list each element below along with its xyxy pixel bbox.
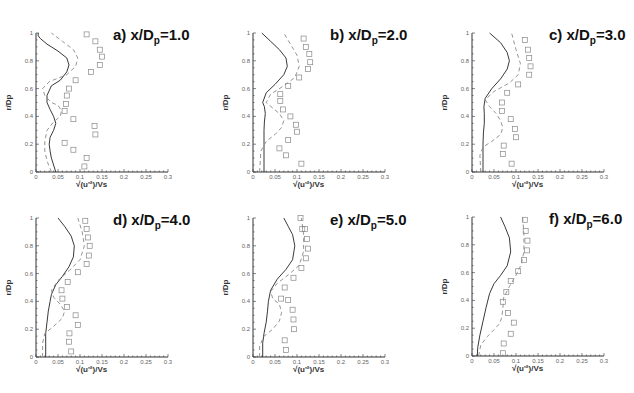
y-tick-label: 0	[466, 353, 470, 359]
y-tick-label: 0	[466, 169, 470, 175]
axes	[253, 218, 385, 357]
solid-curve	[263, 218, 295, 357]
y-tick-label: 0.2	[242, 326, 251, 332]
x-tick-label: 0.05	[488, 174, 500, 180]
x-axis-label: √(u'²)/Vs	[293, 365, 324, 374]
y-axis-label: r/Dp	[221, 279, 230, 295]
y-tick-label: 0.4	[461, 113, 470, 119]
x-tick-label: 0.2	[120, 359, 129, 365]
dashed-curve	[43, 33, 78, 172]
y-tick-label: 0.8	[461, 58, 470, 64]
x-tick-label: 0	[34, 359, 38, 365]
x-tick-label: 0.2	[556, 358, 565, 364]
y-tick-label: 0.8	[242, 58, 251, 64]
y-tick-label: 0.6	[242, 271, 251, 277]
y-tick-label: 0.4	[242, 298, 251, 304]
plot-area: 00.20.40.60.8100.050.10.150.20.250.3	[436, 184, 634, 380]
panel-a: a) x/Dp=1.000.20.40.60.8100.050.10.150.2…	[0, 0, 211, 196]
x-tick-label: 0.2	[556, 174, 565, 180]
x-tick-label: 0.25	[140, 359, 152, 365]
x-tick-label: 0.3	[164, 174, 173, 180]
x-tick-label: 0.3	[164, 359, 173, 365]
y-tick-label: 0.2	[461, 325, 470, 331]
x-axis-label: √(u'²)/Vs	[512, 364, 543, 373]
y-axis-label: r/Dp	[440, 278, 449, 294]
x-tick-label: 0.3	[600, 174, 609, 180]
plot-area: 00.20.40.60.8100.050.10.150.20.250.3	[436, 0, 634, 196]
x-tick-label: 0	[251, 359, 255, 365]
x-tick-label: 0	[34, 174, 38, 180]
x-tick-label: 0.25	[357, 174, 369, 180]
y-tick-label: 0	[247, 169, 251, 175]
y-tick-label: 0.8	[242, 243, 251, 249]
x-tick-label: 0.05	[269, 359, 281, 365]
x-tick-label: 0	[470, 174, 474, 180]
y-tick-label: 0.8	[25, 243, 34, 249]
y-tick-label: 0.4	[242, 113, 251, 119]
y-tick-label: 1	[466, 30, 470, 36]
y-tick-label: 0.2	[461, 141, 470, 147]
y-tick-label: 0	[247, 354, 251, 360]
x-tick-label: 0.3	[381, 359, 390, 365]
dashed-curve	[479, 217, 524, 356]
solid-curve	[477, 217, 510, 356]
x-tick-label: 0	[251, 174, 255, 180]
y-tick-label: 0.8	[25, 58, 34, 64]
axes	[36, 218, 168, 357]
y-tick-label: 0.2	[25, 326, 34, 332]
y-axis-label: r/Dp	[4, 94, 13, 110]
dashed-curve	[260, 218, 304, 357]
plot-area: 00.20.40.60.8100.050.10.150.20.250.3	[0, 0, 211, 196]
y-tick-label: 0.6	[461, 270, 470, 276]
y-tick-label: 0.4	[25, 298, 34, 304]
y-tick-label: 1	[30, 215, 34, 221]
y-tick-label: 0.6	[461, 86, 470, 92]
axes	[253, 33, 385, 172]
y-tick-label: 0	[30, 354, 34, 360]
plot-area: 00.20.40.60.8100.050.10.150.20.250.3	[0, 185, 211, 381]
y-tick-label: 0.4	[461, 297, 470, 303]
y-tick-label: 0.2	[242, 141, 251, 147]
axes	[472, 33, 604, 172]
y-axis-label: r/Dp	[440, 94, 449, 110]
y-axis-label: r/Dp	[4, 279, 13, 295]
solid-curve	[38, 33, 69, 172]
solid-curve	[262, 33, 288, 172]
plot-area: 00.20.40.60.8100.050.10.150.20.250.3	[217, 185, 428, 381]
x-tick-label: 0.2	[337, 359, 346, 365]
experimental-markers	[499, 37, 533, 166]
y-axis-label: r/Dp	[221, 94, 230, 110]
y-tick-label: 1	[30, 30, 34, 36]
experimental-markers	[277, 36, 313, 166]
y-tick-label: 0	[30, 169, 34, 175]
x-tick-label: 0.05	[269, 174, 281, 180]
y-tick-label: 1	[247, 215, 251, 221]
axes	[472, 217, 604, 356]
x-tick-label: 0.3	[381, 174, 390, 180]
experimental-markers	[62, 32, 104, 169]
x-tick-label: 0.25	[576, 358, 588, 364]
y-tick-label: 0.6	[25, 271, 34, 277]
y-tick-label: 1	[247, 30, 251, 36]
panel-c: c) x/Dp=3.000.20.40.60.8100.050.10.150.2…	[436, 0, 634, 196]
x-tick-label: 0.25	[576, 174, 588, 180]
x-tick-label: 0.2	[337, 174, 346, 180]
x-tick-label: 0.05	[488, 358, 500, 364]
panel-e: e) x/Dp=5.000.20.40.60.8100.050.10.150.2…	[217, 185, 428, 381]
y-tick-label: 0.6	[242, 86, 251, 92]
y-tick-label: 0.6	[25, 86, 34, 92]
y-tick-label: 0.2	[25, 141, 34, 147]
plot-area: 00.20.40.60.8100.050.10.150.20.250.3	[217, 0, 428, 196]
x-tick-label: 0.25	[357, 359, 369, 365]
x-tick-label: 0.25	[140, 174, 152, 180]
x-tick-label: 0.2	[120, 174, 129, 180]
y-tick-label: 1	[466, 214, 470, 220]
experimental-markers	[500, 217, 530, 355]
y-tick-label: 0.4	[25, 113, 34, 119]
experimental-markers	[279, 216, 311, 353]
y-tick-label: 0.8	[461, 242, 470, 248]
x-tick-label: 0.05	[52, 359, 64, 365]
experimental-markers	[59, 218, 92, 354]
panel-b: b) x/Dp=2.000.20.40.60.8100.050.10.150.2…	[217, 0, 428, 196]
x-tick-label: 0	[470, 358, 474, 364]
